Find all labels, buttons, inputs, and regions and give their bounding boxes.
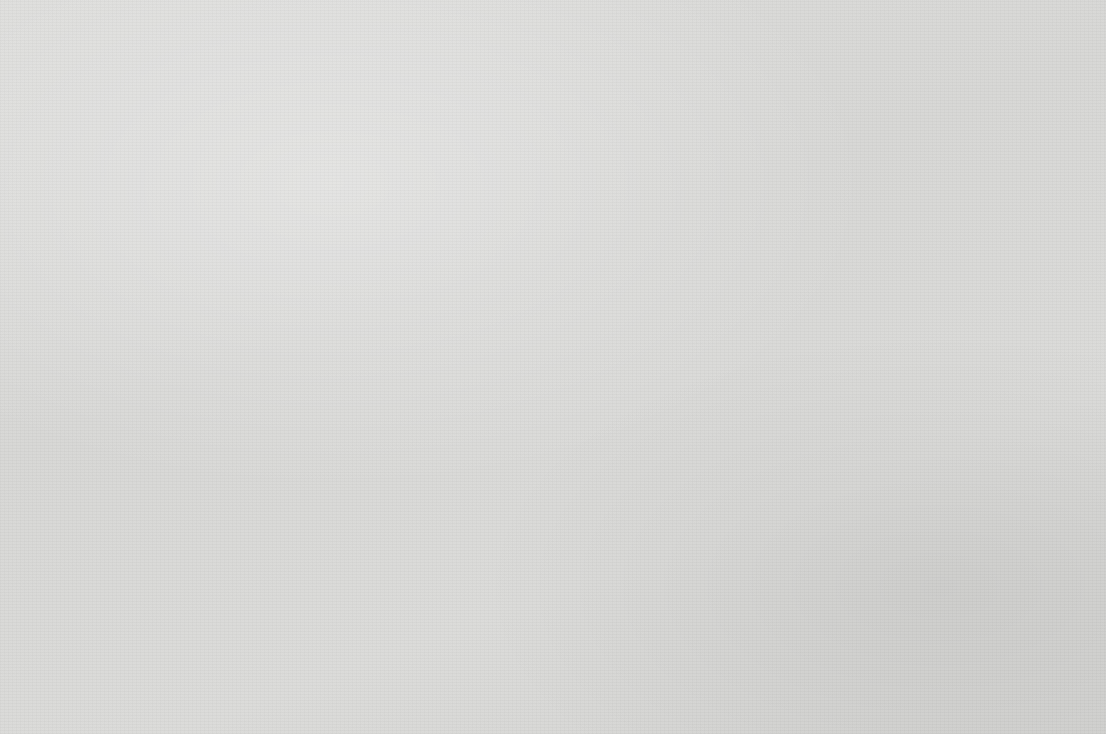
x-axis-label-slot: Chemistry (595, 531, 644, 731)
x-axis-tick-mark (915, 525, 916, 531)
bar-slot (497, 70, 546, 523)
x-axis-tick-label: Physics (808, 535, 825, 588)
x-axis-tick-label: Mechanical Eng. (956, 535, 973, 649)
bar-slot (742, 70, 791, 523)
y-axis-tick-label: 3.50 (80, 401, 140, 421)
bar-slot (840, 70, 889, 523)
x-axis-tick-mark (226, 525, 227, 531)
x-axis-label-slot: English (201, 531, 250, 731)
x-axis-tick-mark (620, 525, 621, 531)
x-axis-label-slot: Mechanical Eng. (940, 531, 989, 731)
x-axis-tick-mark (669, 525, 670, 531)
bar (753, 231, 781, 523)
x-axis-label-slot: Chemical Eng. (890, 531, 939, 731)
bar (704, 144, 732, 523)
x-axis-tick-mark (423, 525, 424, 531)
x-axis-tick-label: Chemistry (611, 535, 628, 604)
x-axis-tick-mark (767, 525, 768, 531)
x-axis-label-slot: Economics (300, 531, 349, 731)
y-axis-tick-label: 5.00 (80, 58, 140, 78)
x-axis-label-slot: Statistics (841, 531, 890, 731)
y-axis-tick-label: 4.00 (80, 287, 140, 307)
plot-area (146, 68, 1044, 525)
bar (312, 119, 340, 523)
x-axis-tick-label: Nursing (1005, 535, 1022, 588)
x-axis-tick-label: Linguistics (267, 535, 284, 607)
x-axis-tick-label: Microbiology (463, 535, 480, 622)
x-axis-tick-mark (570, 525, 571, 531)
x-axis-tick-mark (718, 525, 719, 531)
bar (851, 135, 879, 523)
x-axis-tick-mark (324, 525, 325, 531)
bar (410, 171, 438, 523)
bar (214, 203, 242, 523)
bar-slot (889, 70, 938, 523)
x-axis-tick-label: Chemical Eng. (906, 535, 923, 635)
y-axis-tick-labels: 5.004.504.003.503.00 (78, 0, 140, 734)
bar (998, 171, 1026, 523)
x-axis-tick-label: Statistics (857, 535, 874, 597)
x-axis-tick-mark (816, 525, 817, 531)
x-axis-tick-mark (373, 525, 374, 531)
x-axis-tick-mark (964, 525, 965, 531)
bar (949, 221, 977, 523)
x-axis-tick-label: Economics (316, 535, 333, 610)
y-axis-tick-label: 4.50 (80, 172, 140, 192)
x-axis-tick-label: Political Science (414, 535, 431, 648)
bar-slot (595, 70, 644, 523)
x-axis-tick-label: English (217, 535, 234, 586)
y-axis-tick-label: 3.00 (80, 515, 140, 535)
x-axis-tick-label: Computer Science (660, 535, 677, 662)
bar-slot (938, 70, 987, 523)
bar-slot (154, 70, 203, 523)
x-axis-label-slot: Biology (497, 531, 546, 731)
x-axis-label-slot: Microbiology (447, 531, 496, 731)
x-axis-tick-mark (275, 525, 276, 531)
bar-slot (448, 70, 497, 523)
x-axis-label-slot: Mathematics (743, 531, 792, 731)
bar (263, 153, 291, 523)
bar (557, 237, 585, 523)
bar (606, 178, 634, 523)
bar-slot (693, 70, 742, 523)
x-axis-tick-label: Genetics (710, 535, 727, 596)
x-axis-label-slot: Political Science (398, 531, 447, 731)
bar-slot (546, 70, 595, 523)
x-axis-label-slot: Music (152, 531, 201, 731)
y-axis-tick-mark (140, 182, 147, 183)
bar-slot (644, 70, 693, 523)
bar-chart-figure: Score 5.004.504.003.503.00 MusicEnglishL… (0, 0, 1106, 734)
bar (802, 173, 830, 523)
y-axis-tick-mark (140, 296, 147, 297)
bar-slot (399, 70, 448, 523)
x-axis-label-slot: Physics (792, 531, 841, 731)
bar (165, 116, 193, 523)
x-axis-tick-mark (866, 525, 867, 531)
x-axis-tick-mark (521, 525, 522, 531)
bar (508, 272, 536, 523)
bar-slot (252, 70, 301, 523)
x-axis-label-slot: Cell Biology (546, 531, 595, 731)
x-axis-tick-label: History (365, 535, 382, 583)
x-axis-tick-label: Biology (513, 535, 530, 586)
y-axis-tick-mark (140, 410, 147, 411)
x-axis-label-slot: Computer Science (644, 531, 693, 731)
x-axis-tick-label: Mathematics (759, 535, 776, 622)
bar-slot (203, 70, 252, 523)
bar-slot (350, 70, 399, 523)
x-axis-label-slot: Linguistics (250, 531, 299, 731)
bar (655, 169, 683, 523)
x-axis-tick-mark (1013, 525, 1014, 531)
x-axis-label-slot: History (349, 531, 398, 731)
x-axis-tick-label: Music (168, 535, 185, 575)
y-axis-tick-mark (140, 525, 147, 526)
y-axis-tick-mark (140, 68, 147, 69)
y-axis-title: Score (48, 162, 65, 252)
x-axis-tick-labels: MusicEnglishLinguisticsEconomicsHistoryP… (146, 531, 1044, 731)
x-axis-tick-mark (177, 525, 178, 531)
bar (361, 164, 389, 523)
x-axis-tick-mark (472, 525, 473, 531)
bar (459, 135, 487, 523)
bar-slot (791, 70, 840, 523)
bar-slot (301, 70, 350, 523)
